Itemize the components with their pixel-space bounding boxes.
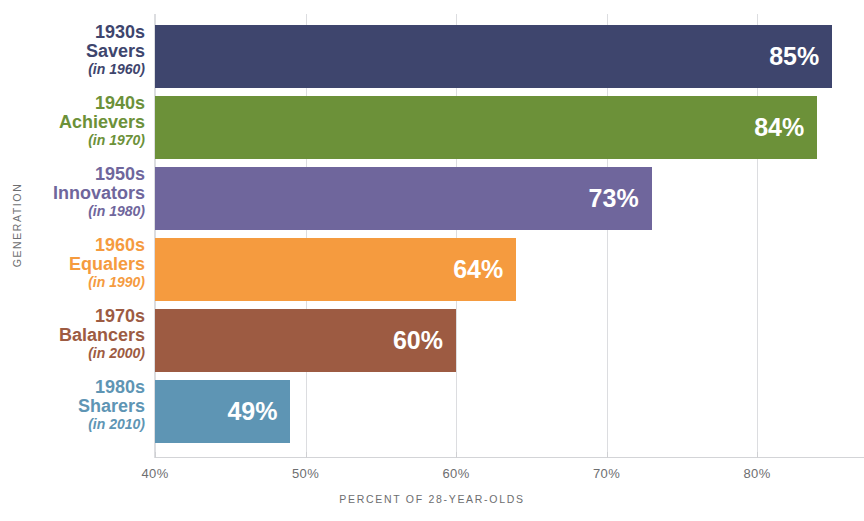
- category-label-1940s: 1940sAchievers(in 1970): [0, 94, 155, 148]
- bar-value-label: 49%: [227, 399, 290, 424]
- category-decade: 1950s: [0, 165, 145, 184]
- bar-chart: GENERATION 1930sSavers(in 1960)85%1940sA…: [0, 0, 864, 521]
- category-label-1930s: 1930sSavers(in 1960): [0, 23, 155, 77]
- bar-1980s[interactable]: 49%: [155, 380, 290, 443]
- bar-value-label: 84%: [754, 115, 817, 140]
- category-label-1960s: 1960sEqualers(in 1990): [0, 236, 155, 290]
- x-tick-mark: [306, 452, 307, 458]
- category-year: (in 2010): [0, 417, 145, 432]
- bar-1930s[interactable]: 85%: [155, 25, 832, 88]
- bar-value-label: 73%: [589, 186, 652, 211]
- bar-row: 1970sBalancers(in 2000)60%: [0, 309, 864, 372]
- x-tick-label-80: 80%: [717, 466, 797, 481]
- category-decade: 1980s: [0, 378, 145, 397]
- x-tick-label-60: 60%: [416, 466, 496, 481]
- bar-row: 1940sAchievers(in 1970)84%: [0, 96, 864, 159]
- category-name: Sharers: [0, 397, 145, 416]
- category-year: (in 2000): [0, 346, 145, 361]
- category-year: (in 1960): [0, 62, 145, 77]
- category-year: (in 1980): [0, 204, 145, 219]
- bar-row: 1980sSharers(in 2010)49%: [0, 380, 864, 443]
- bar-value-label: 60%: [393, 328, 456, 353]
- bar-1970s[interactable]: 60%: [155, 309, 456, 372]
- category-decade: 1960s: [0, 236, 145, 255]
- category-decade: 1930s: [0, 23, 145, 42]
- category-name: Equalers: [0, 255, 145, 274]
- bar-row: 1950sInnovators(in 1980)73%: [0, 167, 864, 230]
- bar-row: 1960sEqualers(in 1990)64%: [0, 238, 864, 301]
- category-label-1950s: 1950sInnovators(in 1980): [0, 165, 155, 219]
- x-tick-mark: [456, 452, 457, 458]
- x-tick-mark: [155, 452, 156, 458]
- category-name: Achievers: [0, 113, 145, 132]
- category-decade: 1970s: [0, 307, 145, 326]
- category-year: (in 1990): [0, 275, 145, 290]
- x-tick-label-50: 50%: [266, 466, 346, 481]
- x-tick-mark: [757, 452, 758, 458]
- category-year: (in 1970): [0, 133, 145, 148]
- bar-1960s[interactable]: 64%: [155, 238, 516, 301]
- x-axis-title: PERCENT OF 28-YEAR-OLDS: [0, 493, 864, 505]
- category-label-1970s: 1970sBalancers(in 2000): [0, 307, 155, 361]
- bar-1940s[interactable]: 84%: [155, 96, 817, 159]
- category-label-1980s: 1980sSharers(in 2010): [0, 378, 155, 432]
- bar-row: 1930sSavers(in 1960)85%: [0, 25, 864, 88]
- category-name: Innovators: [0, 184, 145, 203]
- x-tick-label-70: 70%: [567, 466, 647, 481]
- category-decade: 1940s: [0, 94, 145, 113]
- x-tick-label-40: 40%: [115, 466, 195, 481]
- bar-1950s[interactable]: 73%: [155, 167, 652, 230]
- bar-value-label: 85%: [769, 44, 832, 69]
- x-tick-mark: [607, 452, 608, 458]
- category-name: Balancers: [0, 326, 145, 345]
- bar-value-label: 64%: [453, 257, 516, 282]
- category-name: Savers: [0, 42, 145, 61]
